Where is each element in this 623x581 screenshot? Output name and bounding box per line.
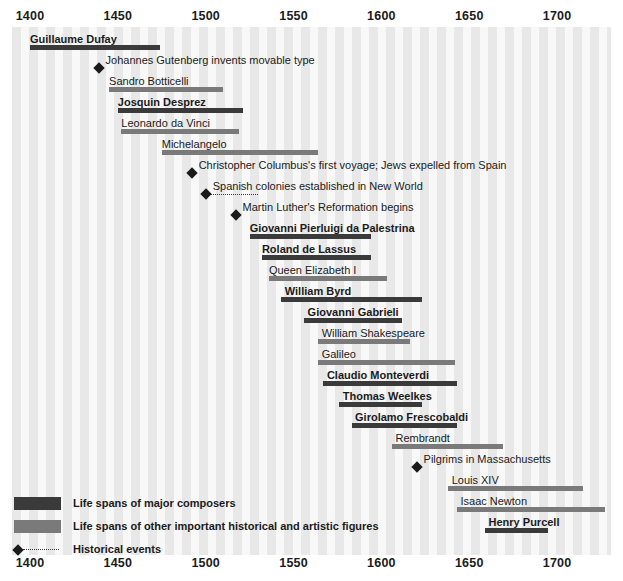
row-label: Girolamo Frescobaldi [355, 411, 468, 423]
timeline-row[interactable]: Christopher Columbus's first voyage; Jew… [12, 155, 611, 176]
timeline-chart: 1400145015001550160016501700 Guillaume D… [0, 0, 623, 581]
timeline-row[interactable]: Guillaume Dufay [12, 29, 611, 50]
timeline-row[interactable]: Martin Luther's Reformation begins [12, 197, 611, 218]
legend-item-composers: Life spans of major composers [14, 493, 236, 513]
plot-area: Guillaume DufayJohannes Gutenberg invent… [12, 27, 611, 555]
axis-tick-1650: 1650 [455, 556, 484, 570]
timeline-row[interactable]: Roland de Lassus [12, 239, 611, 260]
axis-bottom: 1400145015001550160016501700 [0, 556, 623, 574]
row-label: Isaac Newton [460, 495, 527, 507]
legend-label-composers: Life spans of major composers [73, 497, 236, 509]
row-label: William Byrd [285, 285, 352, 297]
timeline-row[interactable]: Pilgrims in Massachusetts [12, 449, 611, 470]
axis-tick-1700: 1700 [543, 556, 572, 570]
timeline-row[interactable]: Rembrandt [12, 428, 611, 449]
figure-swatch-icon [14, 520, 61, 533]
timeline-row[interactable]: Johannes Gutenberg invents movable type [12, 50, 611, 71]
event-duration-line [206, 194, 259, 195]
lifespan-bar[interactable] [485, 528, 548, 533]
axis-tick-1500: 1500 [191, 9, 220, 23]
row-label: Johannes Gutenberg invents movable type [106, 54, 315, 66]
composer-swatch-icon [14, 497, 61, 510]
timeline-row[interactable]: William Byrd [12, 281, 611, 302]
row-label: Guillaume Dufay [30, 33, 117, 45]
row-label: Leonardo da Vinci [121, 117, 209, 129]
row-label: Spanish colonies established in New Worl… [213, 180, 423, 192]
legend-item-figures: Life spans of other important historical… [14, 516, 379, 536]
row-label: Henry Purcell [489, 516, 560, 528]
axis-tick-1400: 1400 [16, 556, 45, 570]
row-label: Christopher Columbus's first voyage; Jew… [199, 159, 507, 171]
row-label: Giovanni Pierluigi da Palestrina [250, 222, 415, 234]
timeline-row[interactable]: Sandro Botticelli [12, 71, 611, 92]
axis-tick-1550: 1550 [279, 556, 308, 570]
row-label: Rembrandt [395, 432, 449, 444]
event-diamond-icon [14, 543, 61, 556]
row-label: Pilgrims in Massachusetts [424, 453, 551, 465]
axis-tick-1700: 1700 [543, 9, 572, 23]
timeline-row[interactable]: Spanish colonies established in New Worl… [12, 176, 611, 197]
timeline-row[interactable]: Thomas Weelkes [12, 386, 611, 407]
axis-top: 1400145015001550160016501700 [0, 9, 623, 27]
timeline-row[interactable]: Queen Elizabeth I [12, 260, 611, 281]
axis-tick-1650: 1650 [455, 9, 484, 23]
row-label: Josquin Desprez [118, 96, 206, 108]
timeline-row[interactable]: Girolamo Frescobaldi [12, 407, 611, 428]
timeline-row[interactable]: Michelangelo [12, 134, 611, 155]
timeline-row[interactable]: Galileo [12, 344, 611, 365]
row-label: William Shakespeare [322, 327, 425, 339]
timeline-row[interactable]: William Shakespeare [12, 323, 611, 344]
axis-tick-1550: 1550 [279, 9, 308, 23]
timeline-row[interactable]: Claudio Monteverdi [12, 365, 611, 386]
axis-tick-1500: 1500 [191, 556, 220, 570]
timeline-row[interactable]: Josquin Desprez [12, 92, 611, 113]
timeline-row[interactable]: Leonardo da Vinci [12, 113, 611, 134]
axis-tick-1450: 1450 [104, 9, 133, 23]
axis-tick-1400: 1400 [16, 9, 45, 23]
axis-tick-1600: 1600 [367, 556, 396, 570]
row-label: Martin Luther's Reformation begins [243, 201, 414, 213]
row-label: Sandro Botticelli [109, 75, 189, 87]
row-label: Galileo [322, 348, 356, 360]
timeline-row[interactable]: Louis XIV [12, 470, 611, 491]
legend-label-figures: Life spans of other important historical… [73, 520, 379, 532]
axis-tick-1450: 1450 [104, 556, 133, 570]
row-label: Queen Elizabeth I [269, 264, 356, 276]
row-label: Michelangelo [162, 138, 227, 150]
timeline-row[interactable]: Giovanni Pierluigi da Palestrina [12, 218, 611, 239]
legend-label-events: Historical events [73, 543, 161, 555]
row-label: Roland de Lassus [262, 243, 356, 255]
timeline-row[interactable]: Giovanni Gabrieli [12, 302, 611, 323]
row-label: Giovanni Gabrieli [308, 306, 399, 318]
row-label: Louis XIV [452, 474, 499, 486]
axis-tick-1600: 1600 [367, 9, 396, 23]
row-label: Claudio Monteverdi [327, 369, 429, 381]
row-label: Thomas Weelkes [343, 390, 432, 402]
